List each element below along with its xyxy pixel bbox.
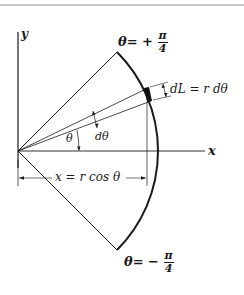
arc-element-label: dL = r dθ (170, 83, 228, 95)
x-axis-label: x (208, 144, 216, 157)
radius-bottom (18, 151, 117, 250)
element-ray-lower (18, 101, 151, 151)
dtheta-arrow-top (92, 111, 96, 116)
dL-extension-lower (153, 96, 171, 100)
theta-top-fraction: π 4 (158, 30, 168, 54)
theta-label: θ (66, 133, 73, 144)
dL-arrow-top (162, 84, 166, 88)
dL-arrow-bottom (164, 93, 168, 97)
x-projection-label: x = r cos θ (55, 171, 120, 183)
theta-top-label: θ= + π 4 (118, 30, 168, 54)
theta-top-prefix: θ= + (118, 34, 153, 49)
theta-bottom-fraction: π 4 (164, 250, 174, 274)
dtheta-arrow-bottom (95, 124, 99, 129)
y-axis-label: y (21, 28, 28, 40)
theta-arrow (77, 147, 81, 152)
theta-bottom-label: θ= − π 4 (124, 250, 174, 274)
element-ray-upper (18, 88, 148, 151)
x-dim-arrow-left (19, 176, 24, 180)
dL-extension-upper (150, 82, 168, 87)
dtheta-label: dθ (95, 131, 109, 142)
x-dim-arrow-right (141, 176, 146, 180)
theta-bottom-prefix: θ= − (124, 254, 159, 269)
